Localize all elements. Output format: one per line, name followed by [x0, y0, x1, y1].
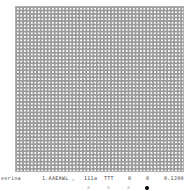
pager-dot-1[interactable]: [87, 186, 90, 189]
pager-dot-3[interactable]: [127, 186, 130, 189]
pager-dot-4-active[interactable]: [145, 186, 149, 190]
status-field-scale: 0.1200: [164, 175, 184, 182]
status-field-x: 0: [128, 175, 131, 182]
pager-dots: [0, 184, 191, 191]
status-field-type: TTT: [104, 175, 114, 182]
dot-grid-canvas[interactable]: [15, 6, 184, 172]
status-bar: enrina 1.AAEAWL , 111a TTT 0 0 0.1200: [0, 175, 191, 182]
pager-dot-2[interactable]: [107, 186, 110, 189]
status-field-y: 0: [146, 175, 149, 182]
status-field-code: 111a: [84, 175, 97, 182]
status-field-value: 1.AAEAWL ,: [42, 175, 75, 182]
status-field-name: enrina: [1, 175, 21, 182]
